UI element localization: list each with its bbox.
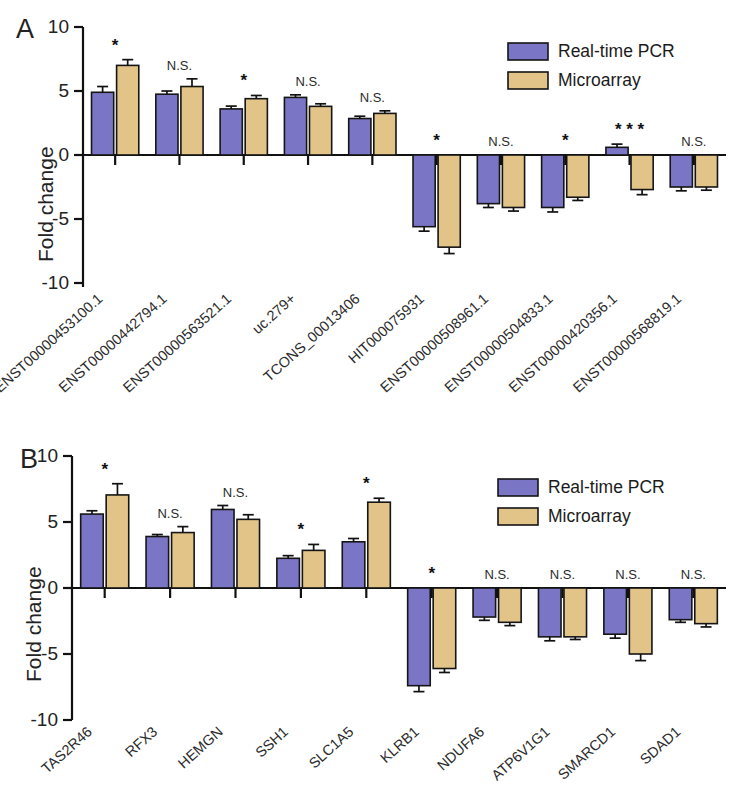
bar-real-time-pcr — [81, 514, 104, 588]
bar-real-time-pcr — [211, 509, 234, 588]
significance-ns: N.S. — [550, 567, 575, 582]
bar-real-time-pcr — [669, 588, 692, 620]
bar-microarray — [695, 155, 717, 187]
y-tick-label: -10 — [42, 272, 69, 293]
bar-microarray — [629, 588, 652, 654]
panel-b-plot: 1050-5-10*TAS2R46N.S.RFX3N.S.HEMGN*SSH1*… — [0, 430, 732, 789]
bar-real-time-pcr — [284, 97, 306, 155]
legend-swatch-micro — [498, 508, 538, 525]
significance-ns: N.S. — [681, 567, 706, 582]
bar-real-time-pcr — [408, 588, 431, 686]
error-bar — [177, 527, 188, 533]
significance-ns: N.S. — [157, 506, 182, 521]
error-bar — [635, 654, 646, 661]
figure-container: A Fold change 1050-5-10*ENST00000453100.… — [0, 0, 732, 789]
legend-label-micro: Microarray — [548, 506, 631, 526]
significance-star: * — [562, 131, 569, 150]
y-tick-label: 0 — [47, 577, 58, 598]
bar-real-time-pcr — [220, 109, 242, 155]
bar-microarray — [237, 519, 260, 588]
bar-real-time-pcr — [277, 558, 300, 588]
bar-microarray — [368, 502, 391, 588]
bar-microarray — [567, 155, 589, 197]
x-axis-category-label: ENST00000453100.1 — [0, 290, 106, 395]
y-tick-label: 5 — [58, 80, 69, 101]
bar-microarray — [106, 495, 129, 588]
y-tick-label: 10 — [48, 16, 69, 37]
legend-label-pcr: Real-time PCR — [548, 477, 665, 497]
bar-microarray — [695, 588, 718, 624]
significance-ns: N.S. — [295, 74, 320, 89]
error-bar — [413, 686, 424, 692]
significance-star: * — [101, 460, 108, 479]
error-bar — [308, 544, 319, 550]
significance-ns: N.S. — [681, 134, 706, 149]
x-axis-category-label: ENST00000420356.1 — [506, 290, 620, 395]
error-bar — [122, 60, 133, 66]
bar-real-time-pcr — [92, 92, 114, 155]
x-axis-category-label: KLRB1 — [377, 723, 422, 766]
legend-swatch-pcr — [498, 479, 538, 496]
x-axis-category-label: TAS2R46 — [38, 723, 95, 776]
x-axis-category-label: HEMGN — [175, 723, 226, 771]
y-tick-label: 0 — [58, 144, 69, 165]
bar-real-time-pcr — [604, 588, 627, 634]
x-axis-category-label: ENST00000568819.1 — [570, 290, 684, 395]
bar-microarray — [302, 550, 325, 588]
bar-real-time-pcr — [538, 588, 561, 637]
significance-star: * — [433, 131, 440, 150]
legend-swatch-micro — [508, 72, 548, 89]
bar-microarray — [433, 588, 456, 669]
significance-ns: N.S. — [223, 485, 248, 500]
significance-ns: N.S. — [167, 58, 192, 73]
error-bar — [444, 247, 455, 253]
bar-real-time-pcr — [606, 147, 628, 155]
bar-microarray — [438, 155, 460, 247]
significance-star: * — [112, 36, 119, 55]
panel-a-plot: 1050-5-10*ENST00000453100.1N.S.ENST00000… — [0, 0, 732, 430]
significance-star: * * * — [615, 120, 645, 139]
x-axis-category-label: ENST00000508961.1 — [377, 290, 491, 395]
y-tick-label: -10 — [31, 709, 58, 730]
y-tick-label: 5 — [47, 511, 58, 532]
bar-microarray — [181, 87, 203, 155]
bar-microarray — [309, 106, 331, 155]
bar-microarray — [631, 155, 653, 190]
significance-star: * — [240, 71, 247, 90]
significance-star: * — [428, 564, 435, 583]
x-axis-category-label: NDUFA6 — [434, 723, 487, 773]
significance-ns: N.S. — [360, 90, 385, 105]
y-tick-label: -5 — [41, 643, 58, 664]
x-axis-category-label: uc.279+ — [249, 290, 298, 337]
bar-real-time-pcr — [473, 588, 496, 617]
bar-real-time-pcr — [413, 155, 435, 227]
panel-b: B Fold change 1050-5-10*TAS2R46N.S.RFX3N… — [0, 430, 732, 789]
bar-real-time-pcr — [146, 537, 169, 588]
x-axis-category-label: ATP6V1G1 — [488, 723, 552, 783]
error-bar — [112, 484, 123, 495]
bar-real-time-pcr — [342, 542, 365, 588]
bar-microarray — [117, 65, 139, 155]
x-axis-category-label: SMARCD1 — [555, 723, 618, 782]
bar-microarray — [374, 113, 396, 155]
bar-microarray — [502, 155, 524, 207]
error-bar — [97, 87, 108, 93]
bar-real-time-pcr — [349, 119, 371, 155]
bar-real-time-pcr — [156, 94, 178, 155]
x-axis-category-label: ENST00000504833.1 — [441, 290, 555, 395]
panel-a: A Fold change 1050-5-10*ENST00000453100.… — [0, 0, 732, 430]
bar-microarray — [564, 588, 587, 637]
x-axis-category-label: ENST00000563521.1 — [120, 290, 234, 395]
bar-microarray — [499, 588, 522, 622]
bar-microarray — [172, 533, 195, 588]
error-bar — [186, 79, 197, 87]
significance-ns: N.S. — [615, 567, 640, 582]
bar-microarray — [245, 99, 267, 155]
y-tick-label: -5 — [52, 208, 69, 229]
significance-star: * — [363, 474, 370, 493]
x-axis-category-label: ENST00000442794.1 — [56, 290, 170, 395]
y-tick-label: 10 — [37, 445, 58, 466]
x-axis-category-label: SSH1 — [252, 723, 291, 760]
bar-real-time-pcr — [477, 155, 499, 204]
x-axis-category-label: SLC1A5 — [306, 723, 357, 771]
